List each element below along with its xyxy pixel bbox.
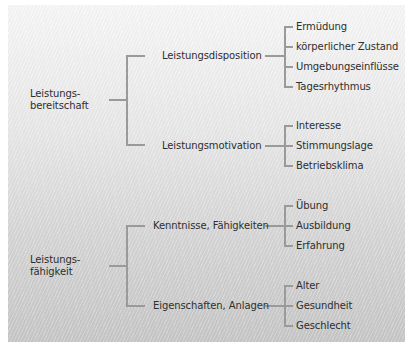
connector-line	[265, 55, 285, 57]
root-label-line1: Leistungs-	[30, 254, 80, 266]
bracket-tick	[284, 46, 293, 48]
root-node-leistungsfaehigkeit: Leistungs- fähigkeit	[30, 254, 80, 278]
bracket-tick	[284, 305, 293, 307]
bracket-tick	[284, 225, 293, 227]
root-label-line2: fähigkeit	[30, 266, 80, 278]
root-label-line1: Leistungs-	[30, 88, 88, 100]
leaf-ausbildung: Ausbildung	[296, 220, 351, 232]
root-node-leistungsbereitschaft: Leistungs- bereitschaft	[30, 88, 88, 112]
leaf-uebung: Übung	[296, 200, 328, 212]
bracket-tick	[284, 145, 293, 147]
leaf-stimmungslage: Stimmungslage	[296, 140, 373, 152]
bracket-tick	[284, 325, 293, 327]
leaf-erfahrung: Erfahrung	[296, 240, 345, 252]
bracket-tick	[126, 55, 145, 57]
leaf-alter: Alter	[296, 280, 319, 292]
bracket-tick	[126, 305, 145, 307]
bracket-tick	[126, 144, 145, 146]
bracket-tick	[284, 66, 293, 68]
leaf-interesse: Interesse	[296, 120, 341, 132]
bracket-tick	[284, 125, 293, 127]
node-leistungsdisposition: Leistungsdisposition	[162, 50, 262, 62]
connector-line	[265, 145, 285, 147]
leaf-umgebungseinfluesse: Umgebungseinflüsse	[296, 61, 399, 73]
bracket-tick	[284, 245, 293, 247]
bracket-vertical	[284, 26, 286, 88]
leaf-geschlecht: Geschlecht	[296, 320, 351, 332]
connector-line	[109, 265, 127, 267]
bracket-tick	[126, 225, 145, 227]
leaf-tagesrhythmus: Tagesrhythmus	[296, 81, 371, 93]
node-kenntnisse-faehigkeiten: Kenntnisse, Fähigkeiten	[153, 220, 269, 232]
bracket-tick	[284, 205, 293, 207]
leaf-ermuedung: Ermüdung	[296, 21, 347, 33]
node-leistungsmotivation: Leistungsmotivation	[162, 140, 262, 152]
bracket-vertical	[126, 225, 128, 307]
connector-line	[109, 99, 127, 101]
node-eigenschaften-anlagen: Eigenschaften, Anlagen	[153, 300, 269, 312]
leaf-gesundheit: Gesundheit	[296, 300, 352, 312]
root-label-line2: bereitschaft	[30, 100, 88, 112]
leaf-koerperlicher-zustand: körperlicher Zustand	[296, 41, 398, 53]
leaf-betriebsklima: Betriebsklima	[296, 160, 363, 172]
bracket-vertical	[126, 55, 128, 146]
bracket-tick	[284, 86, 293, 88]
bracket-tick	[284, 26, 293, 28]
bracket-tick	[284, 285, 293, 287]
bracket-tick	[284, 165, 293, 167]
